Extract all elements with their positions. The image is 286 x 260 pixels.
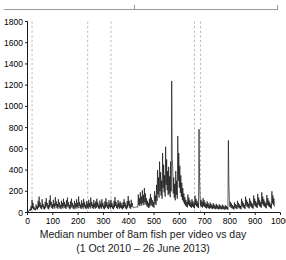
y-tick-label: 1200 [4, 80, 23, 90]
x-tick-label: 500 [147, 216, 161, 226]
chart-plot-area: 0200400600800100012001400160018000100200… [0, 0, 286, 225]
y-tick-label: 600 [9, 144, 23, 154]
x-tick-label: 1000 [271, 216, 286, 226]
y-tick-label: 1000 [4, 101, 23, 111]
x-tick-label: 600 [172, 216, 186, 226]
data-series-line-1 [28, 81, 275, 212]
figure-container: 0200400600800100012001400160018000100200… [0, 0, 286, 260]
x-tick-label: 700 [198, 216, 212, 226]
y-tick-label: 400 [9, 165, 23, 175]
y-tick-label: 800 [9, 123, 23, 133]
x-tick-label: 900 [248, 216, 262, 226]
x-tick-label: 100 [46, 216, 60, 226]
y-tick-label: 1600 [4, 38, 23, 48]
x-tick-label: 800 [223, 216, 237, 226]
y-tick-label: 200 [9, 186, 23, 196]
caption-line-1: Median number of 8am fish per video vs d… [0, 228, 286, 241]
x-tick-label: 0 [25, 216, 30, 226]
x-tick-label: 200 [71, 216, 85, 226]
y-tick-label: 1400 [4, 59, 23, 69]
y-tick-label: 0 [18, 208, 23, 218]
caption-line-2: (1 Oct 2010 – 26 June 2013) [0, 242, 286, 255]
x-tick-label: 300 [96, 216, 110, 226]
x-tick-label: 400 [122, 216, 136, 226]
y-tick-label: 1800 [4, 17, 23, 27]
